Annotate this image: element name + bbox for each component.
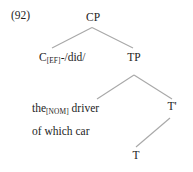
node-tp: TP bbox=[127, 52, 140, 64]
tree-branch-lines bbox=[0, 0, 193, 172]
node-t-bar: T' bbox=[167, 101, 176, 113]
node-c-suffix: -/did/ bbox=[61, 51, 86, 63]
node-c-head: C[EF]-/did/ bbox=[39, 52, 86, 64]
node-c-head-text: C bbox=[39, 51, 47, 63]
node-subject-line-1: the[NOM] driver bbox=[32, 103, 99, 115]
branch-cp-to-tp bbox=[92, 28, 133, 49]
branch-cp-to-c bbox=[52, 28, 92, 49]
syntax-tree-figure: (92) CP C[EF]-/did/ TP the[NOM] driver o… bbox=[0, 0, 193, 172]
subject-noun: driver bbox=[69, 102, 99, 114]
branch-tbar-to-t bbox=[136, 118, 170, 147]
subject-determiner: the bbox=[32, 102, 46, 114]
node-cp: CP bbox=[86, 12, 100, 24]
subject-case-subscript: [NOM] bbox=[46, 107, 69, 116]
branch-tp-to-subject bbox=[97, 75, 134, 99]
node-c-subscript: [EF] bbox=[47, 56, 61, 65]
node-subject-line-2: of which car bbox=[32, 126, 89, 138]
node-t: T bbox=[132, 150, 139, 162]
branch-tp-to-tbar bbox=[134, 75, 172, 99]
